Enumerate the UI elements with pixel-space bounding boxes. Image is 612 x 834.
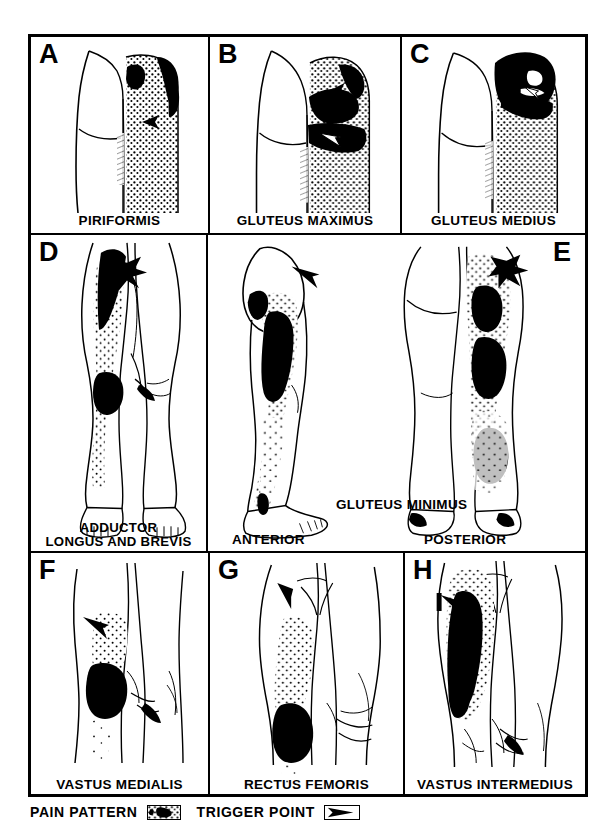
center-panel-anterior-label: ANTERIOR xyxy=(232,532,305,547)
panel-d-artwork xyxy=(31,235,206,551)
panel-label-b: GLUTEUS MAXIMUS xyxy=(210,214,400,229)
panel-g-artwork xyxy=(210,553,403,797)
panel-e-gluteus-minimus[interactable]: E GLUTEUS MINIMUS ANTERIOR POSTERIOR xyxy=(206,235,585,551)
panel-h-vastus-intermedius[interactable]: H VASTUS INTERMEDIUS xyxy=(403,553,585,797)
panel-a-piriformis[interactable]: A PIRIFORMIS xyxy=(31,37,208,233)
trigger-point-marker-anterior xyxy=(292,267,320,289)
panel-letter-g: G xyxy=(218,557,239,584)
legend-trigger-point-label: TRIGGER POINT xyxy=(197,804,315,820)
panel-c-gluteus-medius[interactable]: C GLUTEUS MEDIUS xyxy=(400,37,585,233)
panel-label-g: RECTUS FEMORIS xyxy=(210,778,403,793)
panel-label-c: GLUTEUS MEDIUS xyxy=(402,214,585,229)
panel-b-artwork xyxy=(210,37,400,233)
center-panel-title: GLUTEUS MINIMUS xyxy=(336,497,467,512)
figure-root: A PIRIFORMIS xyxy=(0,0,612,834)
legend-pain-pattern-label: PAIN PATTERN xyxy=(30,804,138,820)
panel-label-h: VASTUS INTERMEDIUS xyxy=(405,778,585,793)
panel-letter-c: C xyxy=(410,41,430,68)
figure-frame: A PIRIFORMIS xyxy=(28,34,588,797)
panel-g-rectus-femoris[interactable]: G RECTUS FEMORIS xyxy=(208,553,403,797)
panel-label-a: PIRIFORMIS xyxy=(31,214,208,229)
panel-h-artwork xyxy=(405,553,585,797)
trigger-point-marker xyxy=(277,583,293,609)
panel-letter-f: F xyxy=(39,557,56,584)
trigger-point-swatch-icon xyxy=(324,805,360,820)
panel-row-2: D ADDUCTOR LONGUS AND BREVIS xyxy=(31,233,585,553)
panel-f-vastus-medialis[interactable]: F VASTUS MEDIALIS xyxy=(31,553,208,797)
panel-row-3: F VASTUS MEDIALIS xyxy=(31,553,585,797)
panel-letter-e: E xyxy=(553,239,571,266)
panel-f-artwork xyxy=(31,553,208,797)
panel-b-gluteus-maximus[interactable]: B GLUTEUS MAXIMUS xyxy=(208,37,400,233)
panel-letter-a: A xyxy=(39,41,59,68)
center-panel-posterior-label: POSTERIOR xyxy=(424,532,506,547)
panel-row-1: A PIRIFORMIS xyxy=(31,37,585,233)
pain-pattern-swatch-icon xyxy=(147,805,181,820)
panel-label-d-line1: ADDUCTOR xyxy=(31,521,206,535)
panel-label-f: VASTUS MEDIALIS xyxy=(31,778,208,793)
panel-letter-d: D xyxy=(39,239,59,266)
panel-label-d: ADDUCTOR LONGUS AND BREVIS xyxy=(31,521,206,550)
panel-d-adductor-longus-and-brevis[interactable]: D ADDUCTOR LONGUS AND BREVIS xyxy=(31,235,206,551)
panel-label-d-line2: LONGUS AND BREVIS xyxy=(31,535,206,549)
panel-letter-h: H xyxy=(413,557,433,584)
panel-letter-b: B xyxy=(218,41,238,68)
figure-legend: PAIN PATTERN TRIGGER POINT xyxy=(30,802,360,822)
